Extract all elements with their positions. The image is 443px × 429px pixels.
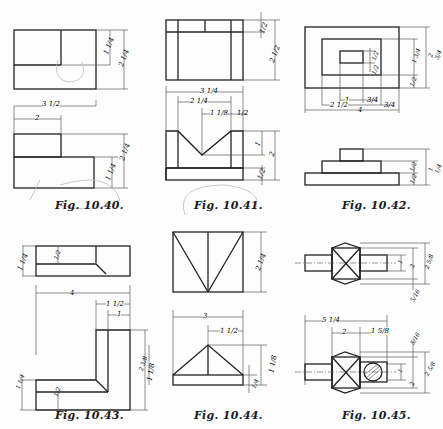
dim-label: 2 1/4 (190, 97, 208, 105)
dim-label: 1 1/2 (106, 300, 124, 308)
dim-label: 1/2 (237, 109, 248, 117)
figure-10-41 (145, 0, 290, 215)
dim-label: 2 (342, 328, 346, 336)
figure-caption-10-41: Fig. 10.41. (194, 199, 263, 212)
figure-caption-10-42: Fig. 10.42. (342, 199, 411, 212)
dim-label: 1 1/8 (210, 109, 228, 117)
dim-label: 2 (35, 114, 39, 122)
dim-label: 1 (117, 310, 121, 318)
figure-10-44 (145, 215, 290, 429)
figure-caption-10-40: Fig. 10.40. (55, 199, 124, 212)
fig-10-43-drawing (0, 215, 145, 429)
dim-label: 3/4 (367, 96, 378, 104)
textbook-page: 1 1/4 2 1/4 3 1/2 2 2 1/4 1 1/4 1/2 2 1/… (0, 0, 443, 429)
dim-label: 1 5/8 (371, 327, 389, 335)
dim-label: 3 1/4 (200, 87, 218, 95)
figure-10-45 (290, 215, 443, 429)
figure-caption-10-43: Fig. 10.43. (55, 409, 124, 422)
fig-10-44-drawing (145, 215, 290, 429)
dim-label: 4 (358, 106, 362, 114)
figure-10-43 (0, 215, 145, 429)
fig-10-41-drawing (145, 0, 290, 215)
dim-label: 3 (203, 312, 207, 320)
dim-label: 3 1/2 (42, 100, 60, 108)
figure-caption-10-44: Fig. 10.44. (194, 409, 263, 422)
dim-label: 2 1/2 (330, 101, 348, 109)
figure-10-40 (0, 0, 145, 215)
dim-label: 1 1/2 (220, 327, 238, 335)
figure-10-42 (290, 0, 443, 215)
dim-label: 5 1/4 (322, 316, 340, 324)
dim-label: 4 (70, 289, 74, 297)
dim-label: 3/4 (384, 101, 395, 109)
figure-caption-10-45: Fig. 10.45. (342, 409, 411, 422)
fig-10-40-drawing (0, 0, 145, 215)
fig-10-45-drawing (290, 215, 443, 429)
fig-10-42-drawing (290, 0, 443, 215)
